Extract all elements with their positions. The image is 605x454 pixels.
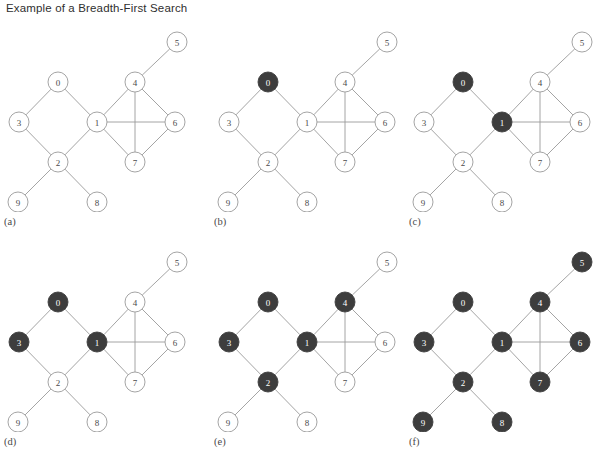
node-label-1: 1 (305, 118, 310, 128)
edge-2-9 (25, 389, 51, 415)
edge-4-5 (547, 49, 575, 75)
edge-2-8 (470, 389, 495, 415)
edge-4-6 (142, 309, 168, 335)
node-label-0: 0 (56, 78, 61, 88)
node-label-6: 6 (383, 338, 388, 348)
panel-label-d: (d) (4, 436, 16, 447)
node-label-2: 2 (266, 378, 271, 388)
edge-0-1 (275, 89, 300, 115)
edge-3-2 (431, 129, 456, 155)
node-label-8: 8 (500, 198, 505, 208)
node-label-7: 7 (343, 378, 348, 388)
node-label-5: 5 (385, 38, 390, 48)
edge-2-8 (65, 169, 90, 195)
node-label-9: 9 (421, 198, 426, 208)
node-label-3: 3 (227, 338, 232, 348)
panel-f: 0123456789(f) (405, 232, 605, 447)
node-label-7: 7 (133, 378, 138, 388)
node-label-5: 5 (175, 38, 180, 48)
edge-4-6 (352, 309, 378, 335)
edge-1-4 (509, 309, 533, 335)
node-label-4: 4 (133, 298, 138, 308)
node-label-4: 4 (538, 298, 543, 308)
edge-6-7 (142, 349, 168, 375)
node-label-4: 4 (343, 78, 348, 88)
edge-3-2 (431, 349, 456, 375)
edge-4-5 (142, 49, 170, 75)
edge-2-1 (470, 349, 495, 375)
edge-1-7 (104, 349, 128, 375)
edge-2-9 (235, 389, 261, 415)
panel-d: 0123456789(d) (0, 232, 200, 447)
edge-6-7 (142, 129, 168, 155)
edge-0-3 (431, 309, 456, 335)
edge-6-7 (352, 129, 378, 155)
node-label-0: 0 (56, 298, 61, 308)
node-label-9: 9 (16, 418, 21, 428)
node-label-3: 3 (422, 338, 427, 348)
edge-2-8 (470, 169, 495, 195)
node-label-6: 6 (578, 118, 583, 128)
edge-1-7 (104, 129, 128, 155)
edge-2-9 (25, 169, 51, 195)
node-label-8: 8 (305, 418, 310, 428)
node-label-1: 1 (500, 338, 505, 348)
node-label-1: 1 (95, 118, 100, 128)
panel-label-b: (b) (214, 216, 226, 227)
node-label-8: 8 (95, 198, 100, 208)
panel-label-a: (a) (4, 216, 16, 227)
panel-graph-c: 0123456789 (405, 12, 605, 212)
node-label-6: 6 (173, 118, 178, 128)
edge-6-7 (547, 349, 573, 375)
node-label-5: 5 (580, 258, 585, 268)
node-label-3: 3 (227, 118, 232, 128)
edge-1-7 (314, 349, 338, 375)
edge-2-8 (275, 169, 300, 195)
node-label-2: 2 (266, 158, 271, 168)
edge-1-7 (509, 349, 533, 375)
node-label-7: 7 (538, 158, 543, 168)
edge-1-4 (509, 89, 533, 115)
edge-2-9 (235, 169, 261, 195)
node-label-0: 0 (266, 298, 271, 308)
node-label-2: 2 (461, 158, 466, 168)
edge-0-1 (470, 89, 495, 115)
edge-3-2 (26, 129, 51, 155)
node-label-6: 6 (578, 338, 583, 348)
node-label-5: 5 (385, 258, 390, 268)
edge-3-2 (26, 349, 51, 375)
node-label-5: 5 (580, 38, 585, 48)
edge-4-5 (547, 269, 575, 295)
panel-graph-f: 0123456789 (405, 232, 605, 432)
edge-0-1 (65, 309, 90, 335)
edge-1-4 (104, 89, 128, 115)
edge-2-8 (275, 389, 300, 415)
node-label-2: 2 (461, 378, 466, 388)
edge-4-6 (547, 89, 573, 115)
node-label-3: 3 (422, 118, 427, 128)
edge-0-3 (431, 89, 456, 115)
edge-4-6 (142, 89, 168, 115)
edge-4-6 (547, 309, 573, 335)
node-label-7: 7 (343, 158, 348, 168)
node-label-8: 8 (95, 418, 100, 428)
node-label-0: 0 (461, 298, 466, 308)
edge-2-8 (65, 389, 90, 415)
edge-2-9 (430, 169, 456, 195)
edge-1-4 (314, 309, 338, 335)
edge-0-3 (236, 89, 261, 115)
edge-2-1 (65, 129, 90, 155)
edge-2-1 (470, 129, 495, 155)
edge-0-1 (470, 309, 495, 335)
edge-0-1 (275, 309, 300, 335)
node-label-9: 9 (226, 198, 231, 208)
edge-2-1 (275, 129, 300, 155)
panel-graph-a: 0123456789 (0, 12, 200, 212)
edge-0-3 (26, 89, 51, 115)
edge-6-7 (352, 349, 378, 375)
node-label-1: 1 (95, 338, 100, 348)
edge-3-2 (236, 129, 261, 155)
node-label-7: 7 (133, 158, 138, 168)
edge-1-4 (104, 309, 128, 335)
edge-2-9 (430, 389, 456, 415)
